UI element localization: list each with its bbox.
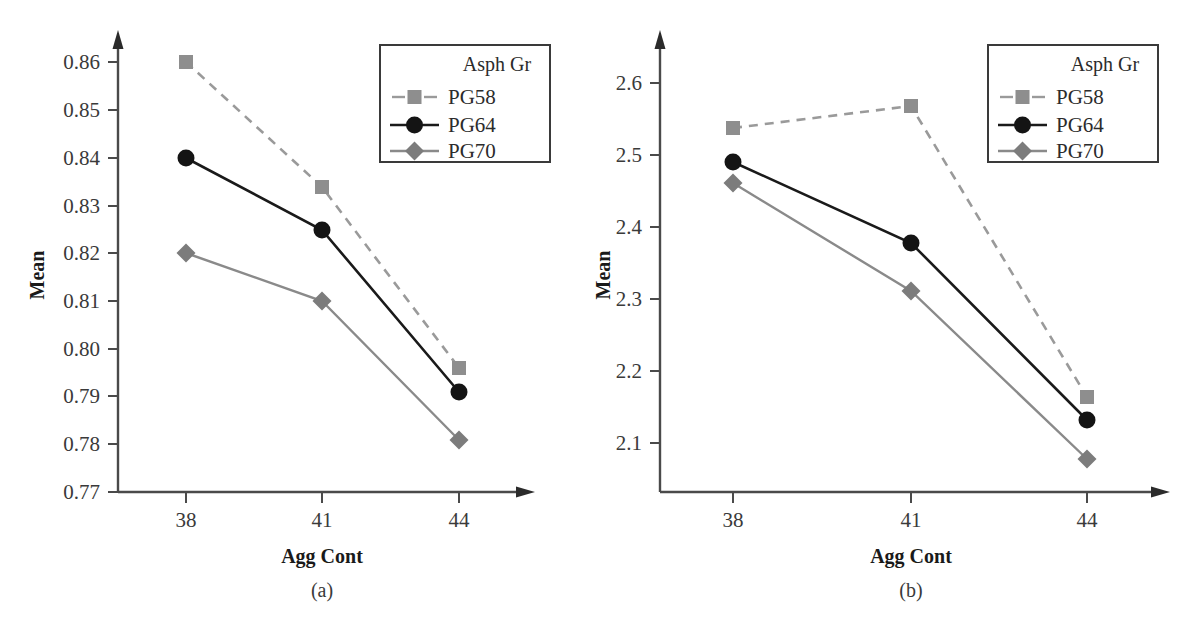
x-tick-label-a-1: 41 (312, 508, 333, 532)
data-point-b-PG64-38 (725, 154, 742, 171)
y-tick-label-b-3: 2.3 (616, 287, 642, 311)
y-tick-label-b-1: 2.5 (616, 143, 642, 167)
legend-label-a-PG64: PG64 (448, 113, 496, 137)
y-tick-label-a-0: 0.86 (63, 50, 100, 74)
data-point-a-PG58-44 (452, 361, 466, 375)
y-tick-label-b-0: 2.6 (616, 71, 642, 95)
data-point-b-PG58-41 (904, 99, 918, 113)
y-tick-label-b-2: 2.4 (616, 215, 643, 239)
y-tick-label-a-5: 0.81 (63, 289, 100, 313)
y-tick-label-a-8: 0.78 (63, 432, 100, 456)
y-ticks-a (108, 62, 118, 492)
y-tick-label-a-9: 0.77 (63, 480, 100, 504)
x-axis-title-b: Agg Cont (870, 545, 952, 568)
y-axis-title-b: Mean (592, 251, 614, 300)
y-tick-label-a-3: 0.83 (63, 194, 100, 218)
x-ticks-a (186, 492, 459, 503)
x-ticks-b (733, 492, 1087, 503)
x-axis-b (660, 487, 1170, 498)
legend-marker-circle-icon (1014, 117, 1031, 134)
y-tick-label-a-6: 0.80 (63, 337, 100, 361)
x-tick-label-b-2: 44 (1077, 508, 1099, 532)
y-tick-label-a-1: 0.85 (63, 98, 100, 122)
series-b-PG70 (724, 174, 1097, 469)
chart-panel-b: 2.6 2.5 2.4 2.3 2.2 2.1 38 41 44 Agg Con… (590, 0, 1187, 622)
legend-label-a-PG58: PG58 (448, 85, 496, 109)
chart-panel-a: 0.86 0.85 0.84 0.83 0.82 0.81 0.80 0.79 … (0, 0, 590, 622)
x-axis-title-a: Agg Cont (281, 545, 363, 568)
data-point-a-PG64-41 (314, 222, 331, 239)
data-point-b-PG58-38 (726, 121, 740, 135)
x-tick-label-b-1: 41 (901, 508, 922, 532)
subcaption-a: (a) (311, 579, 333, 602)
x-tick-label-b-0: 38 (723, 508, 744, 532)
data-point-a-PG58-41 (315, 180, 329, 194)
data-point-a-PG64-38 (178, 150, 195, 167)
data-point-a-PG64-44 (451, 384, 468, 401)
x-tick-label-a-0: 38 (176, 508, 197, 532)
legend-b[interactable]: Asph Gr PG58 PG64 PG70 (988, 45, 1158, 163)
series-a-PG70 (177, 244, 469, 450)
legend-marker-square-icon (408, 90, 422, 104)
data-point-a-PG58-38 (179, 55, 193, 69)
data-point-b-PG64-41 (903, 235, 920, 252)
legend-label-a-PG70: PG70 (448, 139, 496, 163)
subcaption-b: (b) (899, 579, 922, 602)
data-point-b-PG64-44 (1079, 412, 1096, 429)
data-point-b-PG70-38 (724, 174, 743, 193)
interaction-plot-figure: 0.86 0.85 0.84 0.83 0.82 0.81 0.80 0.79 … (0, 0, 1187, 622)
data-point-a-PG70-38 (177, 244, 196, 263)
y-ticks-b (650, 83, 660, 443)
y-tick-label-b-4: 2.2 (616, 359, 642, 383)
x-axis-a (118, 487, 535, 498)
y-tick-label-a-7: 0.79 (63, 384, 100, 408)
y-axis-b (655, 30, 666, 492)
y-axis-a (113, 30, 124, 492)
y-tick-label-a-4: 0.82 (63, 241, 100, 265)
legend-label-b-PG64: PG64 (1056, 113, 1104, 137)
x-tick-label-a-2: 44 (449, 508, 471, 532)
y-tick-label-a-2: 0.84 (63, 146, 100, 170)
legend-marker-square-icon (1016, 90, 1030, 104)
legend-title-b: Asph Gr (1071, 53, 1140, 76)
legend-a[interactable]: Asph Gr PG58 PG64 PG70 (380, 45, 550, 163)
legend-marker-circle-icon (406, 117, 423, 134)
legend-label-b-PG70: PG70 (1056, 139, 1104, 163)
data-point-b-PG58-44 (1080, 390, 1094, 404)
legend-label-b-PG58: PG58 (1056, 85, 1104, 109)
y-tick-label-b-5: 2.1 (616, 431, 642, 455)
legend-title-a: Asph Gr (463, 53, 532, 76)
y-axis-title-a: Mean (26, 251, 48, 300)
